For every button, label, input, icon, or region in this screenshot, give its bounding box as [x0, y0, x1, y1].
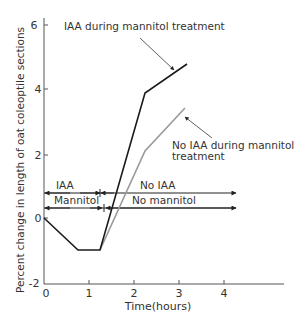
y-tick-label-2: 2: [35, 149, 42, 162]
chart: 6 4 2 0 -2 0 1 2 3 4 Time(hours) Percent…: [0, 0, 294, 325]
x-axis-label: Time(hours): [124, 300, 191, 313]
annotation-iaa-pointer: [140, 38, 174, 70]
y-tick-label-6: 6: [31, 19, 38, 32]
span-label-mannitol: Mannitol: [54, 194, 99, 206]
y-ticks: [44, 25, 48, 218]
series-iaa-line: [44, 64, 187, 250]
y-tick-label-4: 4: [35, 83, 42, 96]
span-label-iaa: IAA: [56, 179, 75, 191]
x-tick-label-0: 0: [43, 287, 50, 300]
annotation-iaa-label: IAA during mannitol treatment: [64, 20, 225, 32]
x-tick-label-1: 1: [86, 287, 93, 300]
x-tick-label-4: 4: [221, 287, 228, 300]
x-ticks: [89, 280, 224, 284]
span-label-no-mannitol: No mannitol: [132, 194, 196, 206]
span-label-no-iaa: No IAA: [140, 179, 176, 191]
y-tick-label-neg2: -2: [29, 277, 40, 290]
y-tick-label-0: 0: [35, 212, 42, 225]
y-axis-label: Percent change in length of oat coleopti…: [14, 27, 26, 293]
annotation-no-iaa-label-line2: treatment: [172, 150, 225, 162]
x-tick-label-2: 2: [131, 287, 138, 300]
x-tick-label-3: 3: [176, 287, 183, 300]
annotation-no-iaa-pointer: [185, 117, 212, 138]
